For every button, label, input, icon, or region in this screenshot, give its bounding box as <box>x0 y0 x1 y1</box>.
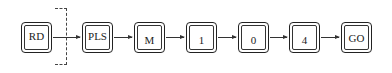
key-pls: PLS <box>82 22 113 53</box>
key-go: GO <box>341 22 372 53</box>
arrow-icon <box>166 37 184 38</box>
key-0: 0 <box>238 22 269 53</box>
key-4: 4 <box>289 22 320 53</box>
key-label: M <box>137 25 162 50</box>
arrow-icon <box>218 37 236 38</box>
key-label: 0 <box>241 25 266 50</box>
key-label: PLS <box>85 25 110 50</box>
key-label: 4 <box>292 25 317 50</box>
key-rd: RD <box>21 22 52 53</box>
arrow-icon <box>270 37 287 38</box>
arrow-icon <box>114 37 132 38</box>
key-label: RD <box>24 25 49 50</box>
arrow-icon <box>321 37 339 38</box>
key-label: GO <box>344 25 369 50</box>
arrow-icon <box>53 37 80 38</box>
key-m: M <box>134 22 165 53</box>
key-label: 1 <box>189 25 214 50</box>
key-1: 1 <box>186 22 217 53</box>
